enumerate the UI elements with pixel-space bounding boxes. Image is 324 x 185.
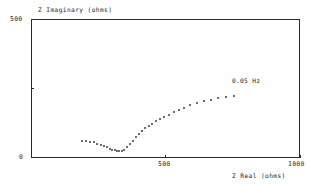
y-tick-mark bbox=[31, 88, 34, 89]
data-point bbox=[168, 114, 170, 116]
y-axis-title: Z Imaginary (ohms) bbox=[38, 6, 112, 13]
data-point bbox=[210, 99, 212, 101]
y-tick-label-min: 0 bbox=[19, 153, 23, 161]
data-point bbox=[159, 118, 161, 120]
data-point bbox=[81, 140, 83, 142]
data-point bbox=[132, 140, 134, 142]
plot-frame bbox=[31, 19, 300, 158]
nyquist-plot-figure: Z Imaginary (ohms) Z Real (ohms) 500 0 5… bbox=[0, 0, 324, 185]
data-point bbox=[89, 141, 91, 143]
data-point bbox=[121, 150, 123, 152]
data-point bbox=[148, 125, 150, 127]
x-axis-title: Z Real (ohms) bbox=[232, 172, 286, 179]
data-point bbox=[151, 123, 153, 125]
data-point bbox=[100, 144, 102, 146]
x-tick-mark bbox=[300, 155, 301, 158]
data-point bbox=[178, 109, 180, 111]
data-point bbox=[138, 133, 140, 135]
x-tick-mark bbox=[165, 155, 166, 158]
x-tick-label-1000: 1000 bbox=[288, 160, 305, 168]
data-point bbox=[141, 130, 143, 132]
frequency-annotation: 0.05 Hz bbox=[232, 77, 260, 84]
data-point bbox=[111, 149, 113, 151]
data-point bbox=[163, 116, 165, 118]
y-tick-label-max: 500 bbox=[10, 15, 22, 23]
data-point bbox=[196, 102, 198, 104]
data-point bbox=[225, 96, 227, 98]
x-tick-label-500: 500 bbox=[158, 160, 170, 168]
